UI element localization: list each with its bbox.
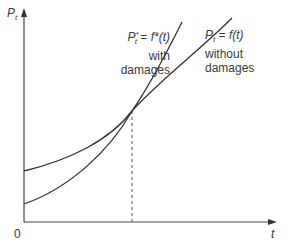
label-without-damages: Pt = f(t) without damages — [205, 28, 254, 75]
origin-label: 0 — [14, 227, 21, 241]
label-with-damages: P*t = f*(t) with damages — [106, 28, 170, 77]
x-axis-arrow-icon — [268, 219, 277, 225]
y-axis-label: Pt — [7, 6, 17, 25]
x-axis-label: t — [271, 227, 274, 241]
y-axis-arrow-icon — [21, 8, 27, 17]
